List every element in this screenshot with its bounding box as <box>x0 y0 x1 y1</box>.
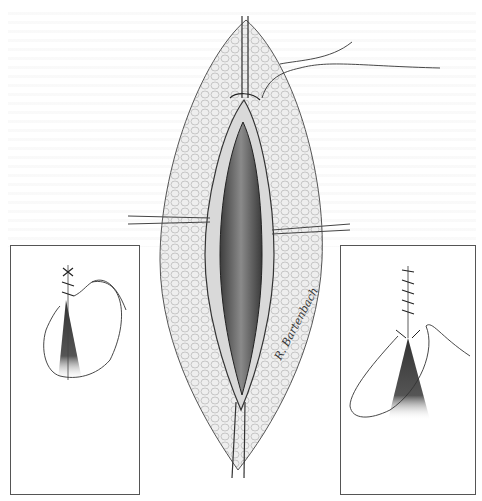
illustration-canvas: R. Bartenbach <box>0 0 482 501</box>
inset-right-drawing <box>0 0 482 501</box>
